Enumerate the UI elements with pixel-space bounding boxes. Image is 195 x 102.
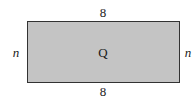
shape-label: Q (98, 46, 107, 59)
left-side-label: n (13, 46, 20, 59)
top-side-label: 8 (100, 6, 107, 19)
bottom-side-label: 8 (100, 85, 107, 98)
right-side-label: n (185, 46, 192, 59)
